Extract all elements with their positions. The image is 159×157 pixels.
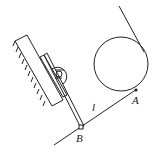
diagram-canvas: A B l (0, 0, 159, 157)
point-A (134, 88, 137, 91)
tangent-line (119, 6, 144, 52)
point-B-slider (79, 125, 83, 129)
label-A: A (131, 94, 139, 106)
wall-hatching (13, 41, 45, 106)
string-l (54, 89, 137, 145)
label-l: l (92, 101, 95, 113)
label-B: B (76, 132, 83, 144)
mount-plate (40, 55, 67, 97)
